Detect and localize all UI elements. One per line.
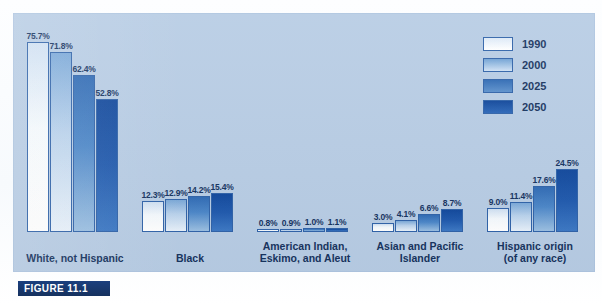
- bars-american-indian: 0.8% 0.9% 1.0% 1.1%: [257, 13, 353, 232]
- bar-white-1990[interactable]: 75.7%: [27, 13, 49, 232]
- bar-black-2025[interactable]: 14.2%: [188, 13, 210, 232]
- bar-value-label: 0.8%: [259, 218, 278, 228]
- bar-asian-1990[interactable]: 3.0%: [372, 13, 394, 232]
- bar-value-label: 12.9%: [164, 188, 187, 198]
- bars-white-not-hispanic: 75.7% 71.8% 62.4% 52.8%: [27, 13, 123, 232]
- legend-swatch-icon: [483, 58, 513, 72]
- bar-value-label: 6.6%: [420, 203, 439, 213]
- legend-swatch-icon: [483, 37, 513, 51]
- figure-caption-label: FIGURE 11.1: [24, 283, 88, 294]
- figure-caption-tab: FIGURE 11.1: [18, 281, 110, 296]
- bar-value-label: 71.8%: [49, 41, 72, 51]
- bar-value-label: 0.9%: [282, 218, 301, 228]
- bar-black-2050[interactable]: 15.4%: [211, 13, 233, 232]
- chart-legend: 1990 2000 2025 2050: [483, 35, 579, 119]
- bars-asian-pacific-islander: 3.0% 4.1% 6.6% 8.7%: [372, 13, 468, 232]
- bar-group-asian-pacific-islander: 3.0% 4.1% 6.6% 8.7%: [372, 13, 468, 272]
- legend-label: 2050: [522, 101, 546, 113]
- bar-american-indian-2025[interactable]: 1.0%: [303, 13, 325, 232]
- bar-asian-2050[interactable]: 8.7%: [441, 13, 463, 232]
- bar-value-label: 4.1%: [397, 209, 416, 219]
- bar-group-black: 12.3% 12.9% 14.2% 15.4%: [142, 13, 238, 272]
- legend-item-1990[interactable]: 1990: [483, 35, 579, 52]
- bar-value-label: 11.4%: [510, 191, 533, 201]
- group-label-hispanic-origin: Hispanic origin (of any race): [455, 240, 602, 264]
- bar-black-1990[interactable]: 12.3%: [142, 13, 164, 232]
- bar-value-label: 14.2%: [187, 185, 210, 195]
- legend-item-2025[interactable]: 2025: [483, 77, 579, 94]
- bar-group-american-indian: 0.8% 0.9% 1.0% 1.1%: [257, 13, 353, 272]
- bar-white-2025[interactable]: 62.4%: [73, 13, 95, 232]
- bar-value-label: 17.6%: [532, 175, 555, 185]
- bar-value-label: 1.0%: [305, 217, 324, 227]
- bar-value-label: 12.3%: [141, 190, 164, 200]
- bar-american-indian-1990[interactable]: 0.8%: [257, 13, 279, 232]
- bar-american-indian-2000[interactable]: 0.9%: [280, 13, 302, 232]
- bar-value-label: 3.0%: [374, 212, 393, 222]
- bar-black-2000[interactable]: 12.9%: [165, 13, 187, 232]
- bar-value-label: 24.5%: [555, 158, 578, 168]
- bar-value-label: 62.4%: [72, 64, 95, 74]
- legend-label: 1990: [522, 38, 546, 50]
- bars-black: 12.3% 12.9% 14.2% 15.4%: [142, 13, 238, 232]
- chart-panel: 75.7% 71.8% 62.4% 52.8%: [13, 13, 595, 272]
- legend-label: 2025: [522, 80, 546, 92]
- bar-white-2050[interactable]: 52.8%: [96, 13, 118, 232]
- legend-item-2050[interactable]: 2050: [483, 98, 579, 115]
- legend-label: 2000: [522, 59, 546, 71]
- bar-value-label: 9.0%: [489, 197, 508, 207]
- bar-value-label: 75.7%: [26, 31, 49, 41]
- legend-swatch-icon: [483, 79, 513, 93]
- bar-value-label: 52.8%: [95, 88, 118, 98]
- bar-value-label: 8.7%: [443, 198, 462, 208]
- bar-asian-2025[interactable]: 6.6%: [418, 13, 440, 232]
- legend-item-2000[interactable]: 2000: [483, 56, 579, 73]
- bar-value-label: 15.4%: [210, 182, 233, 192]
- bar-american-indian-2050[interactable]: 1.1%: [326, 13, 348, 232]
- legend-swatch-icon: [483, 100, 513, 114]
- bar-asian-2000[interactable]: 4.1%: [395, 13, 417, 232]
- bar-white-2000[interactable]: 71.8%: [50, 13, 72, 232]
- bar-value-label: 1.1%: [328, 217, 347, 227]
- bar-group-white-not-hispanic: 75.7% 71.8% 62.4% 52.8%: [27, 13, 123, 272]
